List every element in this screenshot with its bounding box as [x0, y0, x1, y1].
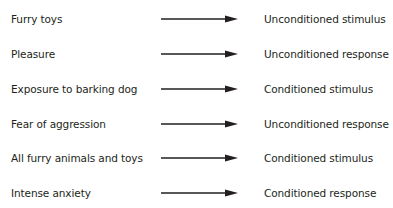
- mapping-row: Exposure to barking dog Conditioned stim…: [0, 80, 393, 100]
- right-arrow-icon: [161, 188, 239, 198]
- right-arrow-icon: [161, 49, 239, 59]
- right-arrow-icon: [161, 14, 239, 24]
- mapping-term: Pleasure: [11, 47, 55, 61]
- mapping-row: Fear of aggression Unconditioned respons…: [0, 115, 393, 135]
- right-arrow-icon: [161, 84, 239, 94]
- mapping-term: All furry animals and toys: [11, 151, 143, 165]
- mapping-term: Fear of aggression: [11, 117, 106, 131]
- mapping-category: Conditioned response: [264, 186, 376, 200]
- mapping-category: Conditioned stimulus: [264, 82, 373, 96]
- mapping-row: Furry toys Unconditioned stimulus: [0, 10, 393, 30]
- mapping-term: Exposure to barking dog: [11, 82, 137, 96]
- mapping-category: Unconditioned response: [264, 47, 389, 61]
- mapping-term: Furry toys: [11, 12, 62, 26]
- mapping-term: Intense anxiety: [11, 186, 91, 200]
- mapping-row: Intense anxiety Conditioned response: [0, 184, 393, 204]
- right-arrow-icon: [161, 153, 239, 163]
- mapping-category: Unconditioned stimulus: [264, 12, 386, 26]
- mapping-category: Unconditioned response: [264, 117, 389, 131]
- right-arrow-icon: [161, 119, 239, 129]
- mapping-row: Pleasure Unconditioned response: [0, 45, 393, 65]
- mapping-category: Conditioned stimulus: [264, 151, 373, 165]
- mapping-row: All furry animals and toys Conditioned s…: [0, 149, 393, 169]
